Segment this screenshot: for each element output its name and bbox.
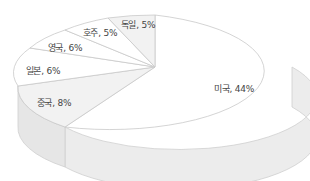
label-uk: 영국, 6% bbox=[48, 41, 83, 54]
label-china: 중국, 8% bbox=[37, 96, 72, 109]
label-usa: 미국, 44% bbox=[214, 82, 254, 95]
label-japan: 일본, 6% bbox=[26, 64, 61, 77]
label-australia: 호주, 5% bbox=[83, 26, 118, 39]
label-germany: 독일, 5% bbox=[121, 18, 156, 31]
